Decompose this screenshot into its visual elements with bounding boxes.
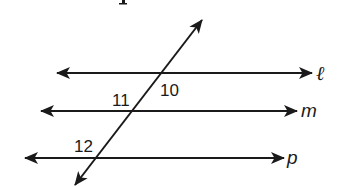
angle-10-label: 10 bbox=[160, 81, 179, 100]
line-l-label: ℓ bbox=[316, 62, 325, 84]
cropped-text-fragment-serif bbox=[119, 3, 127, 5]
angle-11-label: 11 bbox=[112, 91, 130, 110]
line-m-label: m bbox=[301, 100, 317, 121]
parallel-lines-diagram: ℓ m p 10 11 12 bbox=[0, 0, 342, 187]
line-p-label: p bbox=[286, 147, 298, 168]
transversal bbox=[75, 20, 202, 185]
angle-12-label: 12 bbox=[74, 137, 93, 156]
